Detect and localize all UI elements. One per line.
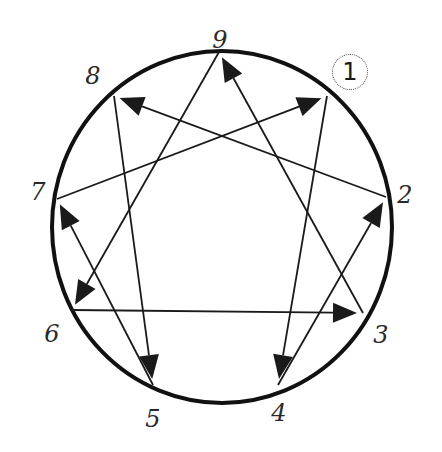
- vertex-label-2: 2: [397, 183, 412, 207]
- arrow-lines: [57, 52, 386, 385]
- arrowhead-icon: [295, 97, 321, 116]
- arrowhead-icon: [75, 279, 96, 305]
- vertex-label-5: 5: [145, 407, 160, 431]
- figure-number: 1: [342, 58, 357, 86]
- arrow-line-1-to-4: [283, 96, 327, 355]
- arrow-line-9-to-6: [87, 52, 219, 284]
- vertex-label-7: 7: [30, 180, 45, 204]
- arrow-line-6-to-3: [72, 310, 333, 313]
- vertex-label-4: 4: [271, 401, 286, 425]
- enneagram-diagram: [0, 0, 442, 452]
- arrowhead-icon: [362, 202, 383, 228]
- arrowhead-icon: [120, 97, 146, 116]
- arrowhead-icon: [60, 204, 80, 230]
- vertex-label-9: 9: [212, 28, 227, 52]
- arrow-line-3-to-9: [233, 78, 363, 313]
- figure-number-badge: 1: [332, 54, 368, 90]
- arrowhead-icon: [333, 303, 357, 323]
- arrowhead-icon: [222, 57, 242, 83]
- vertex-label-3: 3: [373, 323, 388, 347]
- outer-circle: [52, 51, 392, 403]
- vertex-label-8: 8: [85, 64, 100, 88]
- vertex-label-6: 6: [44, 322, 59, 346]
